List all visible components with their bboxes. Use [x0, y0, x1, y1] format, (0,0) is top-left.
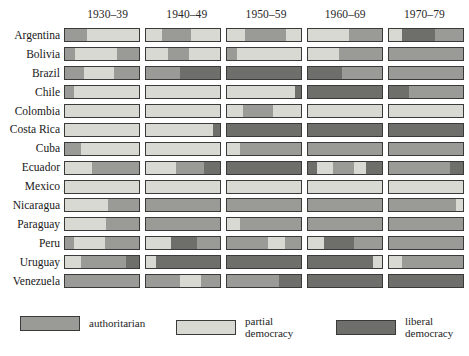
- decade-cell[interactable]: [388, 180, 464, 194]
- decade-header: 1940–49: [147, 4, 226, 24]
- decade-cell[interactable]: [145, 123, 221, 137]
- decade-cell[interactable]: [307, 255, 383, 269]
- country-label: Brazil: [0, 67, 64, 80]
- decade-cell[interactable]: [64, 180, 140, 194]
- decade-cell[interactable]: [145, 255, 221, 269]
- decade-cell[interactable]: [226, 66, 302, 80]
- regime-segment-partial: [227, 143, 240, 155]
- decade-cell[interactable]: [388, 47, 464, 61]
- legend-item-authoritarian[interactable]: authoritarian: [20, 316, 145, 331]
- decade-cell[interactable]: [307, 161, 383, 175]
- decade-cell[interactable]: [145, 85, 221, 99]
- decade-cell[interactable]: [388, 104, 464, 118]
- decade-cell[interactable]: [145, 236, 221, 250]
- decade-cell[interactable]: [64, 66, 140, 80]
- decade-cell[interactable]: [226, 85, 302, 99]
- decade-cell[interactable]: [145, 47, 221, 61]
- decade-cell[interactable]: [388, 161, 464, 175]
- decade-cell[interactable]: [64, 47, 140, 61]
- decade-cell[interactable]: [145, 66, 221, 80]
- decade-cell[interactable]: [145, 274, 221, 288]
- decade-cell[interactable]: [388, 28, 464, 42]
- decade-cell[interactable]: [226, 180, 302, 194]
- decade-cell[interactable]: [226, 161, 302, 175]
- decade-cell[interactable]: [307, 236, 383, 250]
- decade-cell[interactable]: [226, 274, 302, 288]
- regime-segment-authoritarian: [201, 275, 220, 287]
- country-label: Chile: [0, 86, 64, 99]
- regime-segment-partial: [75, 48, 117, 60]
- decade-cell[interactable]: [145, 104, 221, 118]
- decade-cell[interactable]: [307, 66, 383, 80]
- decade-cell[interactable]: [388, 66, 464, 80]
- decade-cell[interactable]: [388, 255, 464, 269]
- decade-cell[interactable]: [226, 198, 302, 212]
- regime-segment-liberal: [171, 237, 196, 249]
- decade-cell[interactable]: [388, 142, 464, 156]
- decade-cell[interactable]: [64, 255, 140, 269]
- regime-segment-partial: [65, 218, 106, 230]
- decade-cell[interactable]: [307, 85, 383, 99]
- decade-cell[interactable]: [307, 274, 383, 288]
- decade-cell[interactable]: [145, 28, 221, 42]
- regime-segment-liberal: [213, 124, 220, 136]
- decade-cell[interactable]: [388, 85, 464, 99]
- decade-cell[interactable]: [145, 142, 221, 156]
- legend-item-partial[interactable]: partial democracy: [176, 316, 293, 339]
- decade-cell[interactable]: [307, 180, 383, 194]
- decade-cell[interactable]: [64, 85, 140, 99]
- regime-segment-partial: [81, 143, 139, 155]
- decade-cell[interactable]: [145, 198, 221, 212]
- decade-cell[interactable]: [145, 180, 221, 194]
- legend-swatch-authoritarian: [20, 316, 80, 331]
- decade-cell[interactable]: [226, 104, 302, 118]
- decade-cell[interactable]: [388, 236, 464, 250]
- decade-cell[interactable]: [64, 104, 140, 118]
- decade-cell[interactable]: [307, 198, 383, 212]
- country-row: Paraguay: [0, 215, 469, 234]
- decade-cell[interactable]: [145, 161, 221, 175]
- regime-segment-partial: [227, 181, 301, 193]
- regime-segment-partial: [268, 237, 284, 249]
- regime-segment-liberal: [279, 275, 301, 287]
- decade-cell[interactable]: [226, 236, 302, 250]
- decade-cell[interactable]: [226, 47, 302, 61]
- regime-segment-liberal: [308, 162, 317, 174]
- decade-cell[interactable]: [226, 217, 302, 231]
- decade-cell[interactable]: [307, 217, 383, 231]
- decade-header: 1960–69: [306, 4, 385, 24]
- regime-segment-liberal: [227, 162, 301, 174]
- decade-cell[interactable]: [64, 142, 140, 156]
- decade-cell[interactable]: [307, 104, 383, 118]
- decade-cell[interactable]: [388, 198, 464, 212]
- decade-cell[interactable]: [307, 123, 383, 137]
- decade-cell[interactable]: [307, 47, 383, 61]
- decade-cell[interactable]: [388, 217, 464, 231]
- decade-cell[interactable]: [64, 28, 140, 42]
- decade-cell[interactable]: [64, 198, 140, 212]
- decade-cell[interactable]: [64, 217, 140, 231]
- decade-cell[interactable]: [307, 142, 383, 156]
- decade-cell[interactable]: [64, 274, 140, 288]
- regime-segment-authoritarian: [65, 48, 75, 60]
- decade-cell[interactable]: [145, 217, 221, 231]
- regime-segment-authoritarian: [227, 199, 301, 211]
- regime-segment-authoritarian: [176, 162, 204, 174]
- decade-cell[interactable]: [226, 142, 302, 156]
- decade-cell[interactable]: [226, 28, 302, 42]
- legend-item-liberal[interactable]: liberal democracy: [336, 316, 453, 339]
- decade-cell[interactable]: [64, 236, 140, 250]
- decade-cell[interactable]: [226, 123, 302, 137]
- regime-segment-authoritarian: [92, 162, 140, 174]
- decade-cell[interactable]: [64, 123, 140, 137]
- decade-cell[interactable]: [388, 123, 464, 137]
- regime-segment-authoritarian: [106, 218, 139, 230]
- decade-cell[interactable]: [226, 255, 302, 269]
- regime-segment-partial: [286, 29, 301, 41]
- decade-cell[interactable]: [64, 161, 140, 175]
- decade-cells: [64, 104, 469, 118]
- regime-segment-partial: [146, 105, 220, 117]
- regime-segment-authoritarian: [146, 67, 180, 79]
- decade-cell[interactable]: [307, 28, 383, 42]
- decade-cell[interactable]: [388, 274, 464, 288]
